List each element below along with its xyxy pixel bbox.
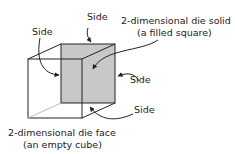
label-face-line2: (an empty cube) — [23, 139, 102, 150]
filled-square — [61, 44, 115, 103]
label-side-top: Side — [87, 11, 108, 22]
label-solid-line1: 2-dimensional die solid — [121, 15, 231, 26]
label-side-left: Side — [32, 26, 53, 37]
label-side-right: Side — [130, 74, 151, 85]
cube-diagram: Side Side 2-dimensional die solid (a fil… — [0, 0, 235, 154]
label-face-line1: 2-dimensional die face — [8, 127, 116, 138]
label-solid-line2: (a filled square) — [137, 27, 212, 38]
arrow-side-bottom-right — [90, 107, 133, 119]
arrow-side-left — [39, 38, 59, 75]
label-side-bottom-right: Side — [134, 104, 155, 115]
arrow-side-top — [87, 28, 91, 42]
